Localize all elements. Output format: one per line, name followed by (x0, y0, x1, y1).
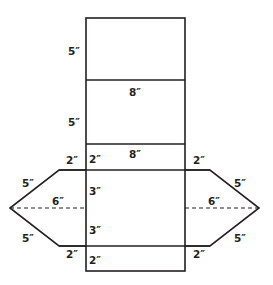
label-left-top-edge: 2″ (66, 154, 78, 166)
label-right-lower-slant: 5″ (234, 232, 246, 244)
label-third-panel-width: 8″ (129, 148, 141, 160)
label-bottom-panel-height: 2″ (89, 254, 101, 266)
label-second-panel-width: 8″ (129, 86, 141, 98)
label-right-bottom-edge: 2″ (193, 248, 205, 260)
label-center-upper-half: 3″ (89, 185, 101, 197)
label-right-upper-slant: 5″ (234, 177, 246, 189)
label-center-lower-half: 3″ (89, 224, 101, 236)
label-left-width: 6″ (52, 195, 64, 207)
label-third-panel-height: 2″ (89, 153, 101, 165)
label-second-panel-height: 5″ (68, 116, 80, 128)
label-right-top-edge: 2″ (193, 154, 205, 166)
label-left-upper-slant: 5″ (22, 177, 34, 189)
label-left-bottom-edge: 2″ (66, 248, 78, 260)
label-right-width: 6″ (208, 195, 220, 207)
label-top-panel-height: 5″ (68, 45, 80, 57)
prism-net-diagram: 5″ 8″ 5″ 8″ 2″ 2″ 2″ 5″ 5″ 3″ 6″ 6″ 3″ 5… (0, 0, 273, 285)
label-left-lower-slant: 5″ (22, 232, 34, 244)
